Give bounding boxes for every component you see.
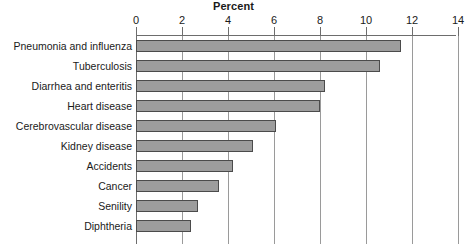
category-label-row: Pneumonia and influenza bbox=[0, 36, 132, 56]
bar-row bbox=[136, 196, 458, 216]
bar bbox=[136, 160, 233, 172]
category-axis-labels: Pneumonia and influenzaTuberculosisDiarr… bbox=[0, 36, 132, 244]
bar-row bbox=[136, 176, 458, 196]
bar-chart: Percent Pneumonia and influenzaTuberculo… bbox=[0, 0, 467, 244]
bar bbox=[136, 140, 253, 152]
x-tick-label: 8 bbox=[317, 14, 323, 26]
x-tick-mark bbox=[274, 27, 275, 36]
bar bbox=[136, 60, 380, 72]
x-tick-mark bbox=[136, 27, 137, 36]
bar bbox=[136, 200, 198, 212]
x-tick-mark bbox=[228, 27, 229, 36]
bar-row bbox=[136, 56, 458, 76]
category-label-row: Cerebrovascular disease bbox=[0, 116, 132, 136]
bar-row bbox=[136, 116, 458, 136]
category-label-row: Tuberculosis bbox=[0, 56, 132, 76]
bar-row bbox=[136, 36, 458, 56]
category-label: Senility bbox=[4, 196, 132, 216]
category-label-row: Diphtheria bbox=[0, 216, 132, 236]
x-tick-label: 0 bbox=[133, 14, 139, 26]
bar bbox=[136, 80, 325, 92]
bar-row bbox=[136, 96, 458, 116]
bar bbox=[136, 40, 401, 52]
x-tick-mark bbox=[366, 27, 367, 36]
x-tick-mark bbox=[320, 27, 321, 36]
category-label: Pneumonia and influenza bbox=[4, 36, 132, 56]
chart-title: Percent bbox=[0, 0, 467, 12]
bar-row bbox=[136, 156, 458, 176]
category-label-row: Cancer bbox=[0, 176, 132, 196]
x-tick-label: 2 bbox=[179, 14, 185, 26]
x-tick-label: 6 bbox=[271, 14, 277, 26]
bar bbox=[136, 180, 219, 192]
category-label-row: Senility bbox=[0, 196, 132, 216]
category-label-row: Diarrhea and enteritis bbox=[0, 76, 132, 96]
category-label-row: Kidney disease bbox=[0, 136, 132, 156]
bar bbox=[136, 220, 191, 232]
x-tick-label: 14 bbox=[452, 14, 464, 26]
category-label: Accidents bbox=[4, 156, 132, 176]
category-label: Cancer bbox=[4, 176, 132, 196]
x-tick-mark bbox=[458, 27, 459, 36]
x-tick-mark bbox=[182, 27, 183, 36]
category-label: Cerebrovascular disease bbox=[4, 116, 132, 136]
x-tick-label: 10 bbox=[360, 14, 372, 26]
category-label-row: Heart disease bbox=[0, 96, 132, 116]
bar-row bbox=[136, 216, 458, 236]
plot-area bbox=[136, 36, 458, 244]
x-tick-mark bbox=[412, 27, 413, 36]
bar bbox=[136, 100, 320, 112]
gridline bbox=[458, 36, 459, 244]
category-label: Tuberculosis bbox=[4, 56, 132, 76]
x-tick-label: 4 bbox=[225, 14, 231, 26]
category-label-row: Accidents bbox=[0, 156, 132, 176]
bar-row bbox=[136, 136, 458, 156]
bar bbox=[136, 120, 276, 132]
category-label: Heart disease bbox=[4, 96, 132, 116]
category-label: Diphtheria bbox=[4, 216, 132, 236]
category-label: Diarrhea and enteritis bbox=[4, 76, 132, 96]
x-tick-label: 12 bbox=[406, 14, 418, 26]
bar-row bbox=[136, 76, 458, 96]
category-label: Kidney disease bbox=[4, 136, 132, 156]
